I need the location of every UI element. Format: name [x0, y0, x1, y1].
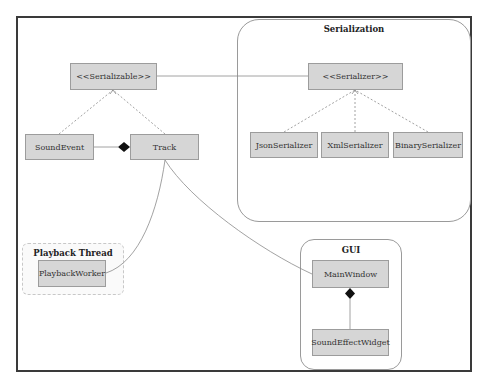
node-label: PlaybackWorker [39, 269, 105, 278]
node-label: SoundEffectWidget [311, 338, 390, 347]
group-title-serialization: Serialization [238, 24, 470, 34]
node-label: BinarySerializer [395, 141, 461, 150]
node-label: SoundEvent [35, 143, 84, 152]
node-serializer[interactable]: <<Serializer>> [308, 63, 403, 90]
node-playback-worker[interactable]: PlaybackWorker [38, 260, 106, 287]
node-sound-event[interactable]: SoundEvent [25, 134, 94, 160]
node-xml-serializer[interactable]: XmlSerializer [321, 132, 389, 158]
node-label: <<Serializable>> [76, 72, 151, 81]
group-serialization: Serialization [237, 19, 471, 222]
node-track[interactable]: Track [130, 134, 199, 160]
node-label: <<Serializer>> [322, 72, 388, 81]
node-label: JsonSerializer [256, 141, 313, 150]
group-title-playback-thread: Playback Thread [23, 248, 123, 258]
node-binary-serializer[interactable]: BinarySerializer [393, 132, 463, 158]
node-json-serializer[interactable]: JsonSerializer [250, 132, 318, 158]
node-label: XmlSerializer [327, 141, 382, 150]
node-main-window[interactable]: MainWindow [312, 260, 389, 288]
node-sound-effect-widget[interactable]: SoundEffectWidget [312, 329, 389, 356]
group-title-gui: GUI [301, 245, 401, 255]
node-label: MainWindow [324, 270, 377, 279]
node-label: Track [153, 143, 176, 152]
node-serializable[interactable]: <<Serializable>> [70, 63, 157, 90]
